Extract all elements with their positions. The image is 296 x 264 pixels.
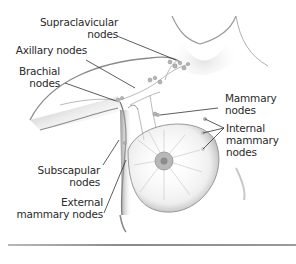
- label-line: nodes: [225, 104, 277, 116]
- label-internal-mammary-nodes: Internal mammary nodes: [226, 122, 279, 158]
- label-line: nodes: [30, 176, 100, 188]
- neck: [172, 16, 268, 75]
- anatomy-figure: Supraclavicular nodes Axillary nodes Bra…: [0, 0, 296, 264]
- label-line: nodes: [226, 146, 279, 158]
- label-supraclavicular-nodes: Supraclavicular nodes: [34, 16, 118, 40]
- label-mammary-nodes: Mammary nodes: [225, 92, 277, 116]
- label-brachial-nodes: Brachial nodes: [14, 65, 60, 89]
- label-line: Axillary nodes: [10, 44, 87, 56]
- label-line: nodes: [34, 28, 118, 40]
- label-line: nodes: [14, 77, 60, 89]
- label-line: Subscapular: [30, 164, 100, 176]
- label-subscapular-nodes: Subscapular nodes: [30, 164, 100, 188]
- label-line: Brachial: [14, 65, 60, 77]
- label-axillary-nodes: Axillary nodes: [10, 44, 87, 56]
- label-line: mammary nodes: [14, 208, 103, 220]
- label-external-mammary-nodes: External mammary nodes: [14, 196, 103, 220]
- label-line: Supraclavicular: [34, 16, 118, 28]
- label-line: Internal: [226, 122, 279, 134]
- label-line: mammary: [226, 134, 279, 146]
- bottom-divider: [8, 244, 296, 246]
- label-line: External: [14, 196, 103, 208]
- label-line: Mammary: [225, 92, 277, 104]
